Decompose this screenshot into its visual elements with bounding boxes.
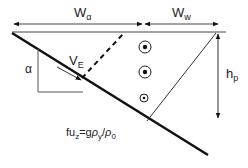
physics-diagram: Wα Ww VE α hp fuz=gρy/ρ0 (0, 0, 248, 168)
thin-diagonal-line (147, 33, 216, 121)
alpha-label: α (25, 62, 32, 76)
out-of-page-symbol (139, 66, 151, 78)
w-w-label: Ww (172, 5, 191, 22)
out-of-page-symbol (140, 94, 148, 102)
v-e-label: VE (69, 53, 84, 70)
dashed-normal-line (82, 33, 124, 78)
h-p-label: hp (226, 66, 238, 83)
out-of-page-symbol (139, 41, 151, 53)
buoyancy-formula: fuz=gρy/ρ0 (66, 126, 116, 141)
w-alpha-label: Wα (74, 5, 91, 22)
